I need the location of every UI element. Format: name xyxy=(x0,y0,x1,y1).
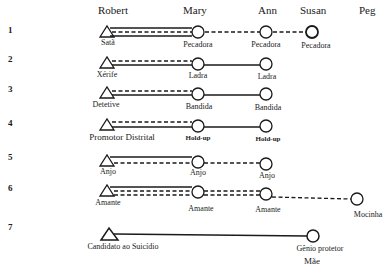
label-row1-susan: Pecadora xyxy=(301,41,330,50)
circle-icon xyxy=(260,58,272,70)
circle-icon xyxy=(260,26,272,38)
circle-icon xyxy=(260,88,272,100)
label-row7-robert: Candidato ao Suicídio xyxy=(87,242,158,251)
circle-icon xyxy=(260,120,272,132)
label-row2-ann: Ladra xyxy=(258,72,277,81)
label-row5-mary: Anjo xyxy=(190,168,206,177)
circle-icon xyxy=(307,230,319,242)
label-row6-ann: Amante xyxy=(255,205,280,214)
label-row3-ann: Bandida xyxy=(255,103,282,112)
circle-icon xyxy=(192,156,204,168)
label-row3-mary: Bandida xyxy=(186,102,213,111)
circle-icon xyxy=(192,186,204,198)
circle-icon xyxy=(192,58,204,70)
circle-icon xyxy=(351,193,363,205)
circle-icon xyxy=(192,88,204,100)
label-row6-mary: Amante xyxy=(188,204,213,213)
circle-icon xyxy=(260,158,272,170)
label-row1-ann: Pecadora xyxy=(251,40,280,49)
circle-icon xyxy=(306,26,318,38)
label-row3-robert: Detetive xyxy=(92,100,119,109)
circle-icon xyxy=(260,188,272,200)
label-row4-mary: Hold-up xyxy=(186,134,211,142)
label-row4-robert: Promotor Distrital xyxy=(89,132,155,142)
label-row5-ann: Anjo xyxy=(259,171,275,180)
label-row2-robert: Xérife xyxy=(97,70,117,79)
label-row6-robert: Amante xyxy=(95,198,120,207)
triangle-icon xyxy=(100,119,114,130)
label-row6-peg: Mocinha xyxy=(354,210,382,219)
label-row1-mary: Pecadora xyxy=(183,40,212,49)
label-row1-robert: Satã xyxy=(101,38,115,47)
circle-icon xyxy=(192,120,204,132)
triangle-icon xyxy=(100,87,114,98)
label-row2-mary: Ladra xyxy=(189,71,208,80)
row-1-lines xyxy=(110,28,306,36)
triangle-icon xyxy=(100,57,114,68)
circle-icon xyxy=(192,26,204,38)
label-row7-genio: Gênio protetor xyxy=(297,244,344,253)
label-row5-robert: Anjo xyxy=(100,167,116,176)
label-row4-ann: Hold-up xyxy=(256,135,281,143)
label-row7-mae: Mãe xyxy=(304,256,320,266)
